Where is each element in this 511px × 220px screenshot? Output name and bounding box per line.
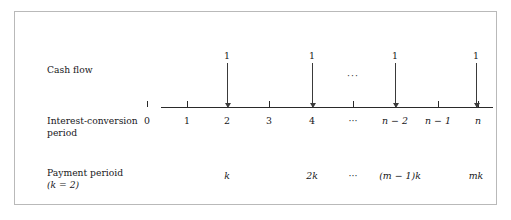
axis-tick-label: 4 [292, 115, 332, 126]
cash-flow-arrow [476, 63, 477, 107]
cash-flow-value: 1 [299, 50, 325, 61]
interest-label-line1: Interest-conversion [47, 115, 138, 127]
row-label-interest-conversion: Interest-conversion period [47, 115, 138, 138]
axis-tick-label: n [458, 115, 498, 126]
cash-flow-value: 1 [214, 50, 240, 61]
axis-tick [187, 101, 188, 107]
cash-flow-value: 1 [382, 50, 408, 61]
payment-label-line1: Payment perioid [47, 167, 123, 179]
axis-tick-label: n − 2 [375, 115, 415, 126]
payment-period-label: k [201, 170, 253, 181]
cash-flow-ellipsis: ··· [338, 70, 368, 81]
payment-period-label: mk [450, 170, 502, 181]
axis-tick-label: n − 1 [418, 115, 458, 126]
payment-period-label: ··· [327, 170, 379, 181]
row-label-cash-flow: Cash flow [47, 64, 93, 76]
payment-period-label: (m − 1)k [374, 170, 426, 181]
axis-tick-label: 2 [207, 115, 247, 126]
axis-tick [147, 101, 148, 107]
timeline-axis [161, 107, 493, 108]
axis-tick-label: 1 [167, 115, 207, 126]
axis-tick [438, 101, 439, 107]
axis-tick [269, 101, 270, 107]
payment-label-line2: (k = 2) [47, 179, 123, 191]
cash-flow-arrow [395, 63, 396, 107]
cash-flow-label-text: Cash flow [47, 64, 93, 76]
cash-flow-arrow [312, 63, 313, 107]
figure-frame: Cash flow Interest-conversion period Pay… [14, 11, 497, 205]
row-label-payment-period: Payment perioid (k = 2) [47, 167, 123, 190]
axis-tick-label: 3 [249, 115, 289, 126]
cash-flow-arrow [227, 63, 228, 107]
cash-flow-value: 1 [463, 50, 489, 61]
axis-tick-label: ··· [333, 115, 373, 126]
axis-tick [353, 101, 354, 107]
interest-label-line2: period [47, 127, 138, 139]
axis-tick-label: 0 [127, 115, 167, 126]
